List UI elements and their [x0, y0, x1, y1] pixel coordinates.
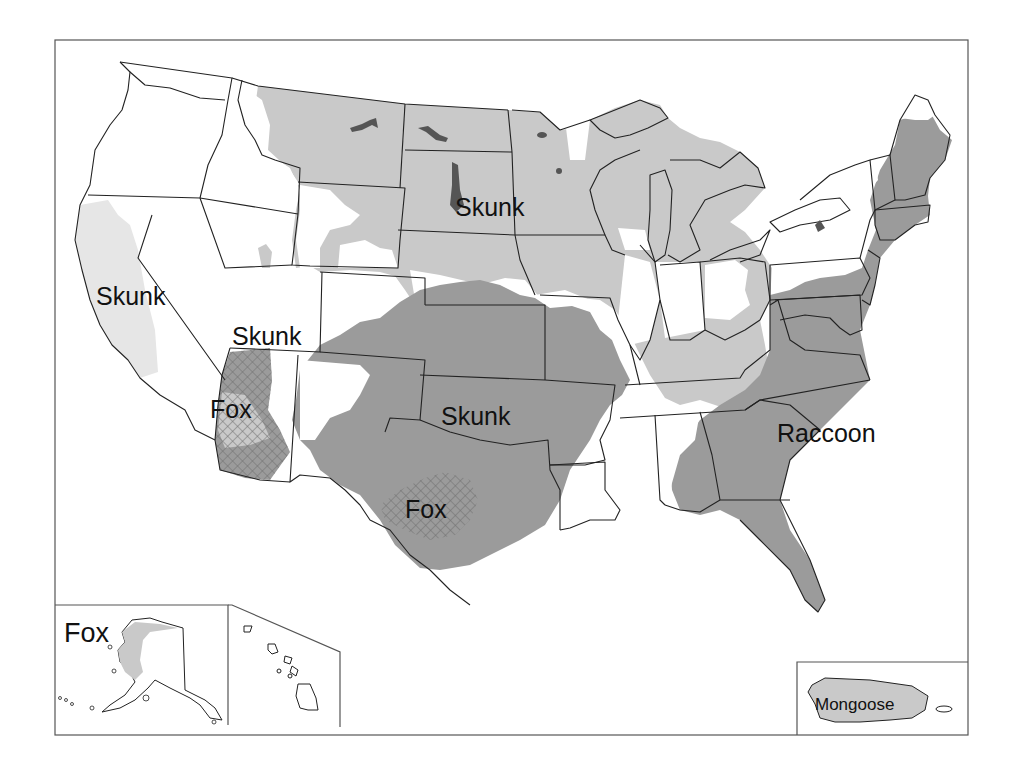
label-fox-alaska: Fox	[64, 618, 110, 648]
label-skunk-california: Skunk	[96, 282, 166, 310]
rabies-reservoir-map: Skunk Skunk Skunk Fox Skunk Raccoon Fox …	[0, 0, 1015, 761]
alaska-shape	[102, 618, 222, 720]
label-skunk-southwest: Skunk	[232, 322, 302, 350]
region-none-maine-north	[900, 95, 935, 120]
label-mongoose: Mongoose	[815, 695, 894, 714]
label-raccoon: Raccoon	[777, 419, 876, 447]
hawaii-inset	[228, 605, 340, 727]
label-skunk-south-central: Skunk	[441, 402, 511, 430]
vieques-shape	[936, 706, 952, 712]
region-skunk-utah-patch	[258, 244, 272, 268]
label-fox-arizona: Fox	[210, 395, 252, 423]
label-fox-texas: Fox	[405, 495, 447, 523]
label-skunk-north-central: Skunk	[455, 193, 525, 221]
